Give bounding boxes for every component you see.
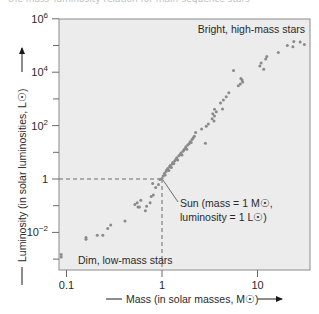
star-point bbox=[157, 183, 160, 186]
star-point bbox=[101, 234, 104, 237]
star-point bbox=[222, 99, 225, 102]
star-point bbox=[109, 224, 112, 227]
annotation-sun-line1: Sun (mass = 1 M☉, bbox=[180, 197, 273, 209]
star-point bbox=[181, 153, 184, 156]
star-point bbox=[260, 62, 263, 65]
star-point bbox=[124, 219, 127, 222]
star-point bbox=[291, 45, 294, 48]
star-point bbox=[299, 41, 302, 44]
star-point bbox=[200, 127, 203, 130]
star-point bbox=[185, 148, 188, 151]
star-point bbox=[149, 201, 152, 204]
star-point bbox=[239, 83, 242, 86]
star-point bbox=[303, 43, 306, 46]
star-point bbox=[205, 125, 208, 128]
star-point bbox=[215, 110, 218, 113]
star-point bbox=[152, 194, 155, 197]
star-point bbox=[219, 102, 222, 105]
star-point bbox=[286, 44, 289, 47]
y-tick-label: 1 bbox=[42, 173, 48, 185]
y-tick-label: 102 bbox=[31, 118, 48, 132]
star-point bbox=[176, 158, 179, 161]
star-point bbox=[241, 81, 244, 84]
star-point bbox=[106, 227, 109, 230]
x-tick-label: 10 bbox=[251, 279, 263, 291]
star-point bbox=[60, 253, 63, 256]
star-point bbox=[164, 174, 167, 177]
x-tick-label: 0.1 bbox=[59, 279, 74, 291]
star-point bbox=[264, 58, 267, 61]
x-axis-ticks: 0.1110 bbox=[59, 270, 264, 291]
star-point bbox=[190, 141, 193, 144]
star-point bbox=[60, 256, 63, 259]
star-point bbox=[292, 40, 295, 43]
star-point bbox=[167, 169, 170, 172]
star-point bbox=[213, 108, 216, 111]
plot-area bbox=[59, 19, 310, 270]
annotation-bright-high-mass: Bright, high-mass stars bbox=[198, 23, 305, 35]
y-tick-label: 10−2 bbox=[27, 224, 49, 238]
star-point bbox=[154, 186, 157, 189]
y-tick-label: 106 bbox=[31, 11, 48, 25]
star-point bbox=[207, 123, 210, 126]
y-axis-label: Luminosity (in solar luminosities, L☉) bbox=[16, 48, 28, 285]
x-axis-label: Mass (in solar masses, M☉) bbox=[106, 293, 282, 305]
mass-luminosity-chart: 106104102110−2 0.1110 Bright, high-mass … bbox=[0, 0, 319, 314]
star-point bbox=[85, 236, 88, 239]
star-point bbox=[211, 117, 214, 120]
star-point bbox=[144, 209, 147, 212]
star-point bbox=[221, 108, 224, 111]
star-point bbox=[225, 95, 228, 98]
x-tick-label: 1 bbox=[159, 279, 165, 291]
star-point bbox=[151, 182, 154, 185]
star-point bbox=[258, 65, 261, 68]
star-point bbox=[138, 205, 141, 208]
star-point bbox=[265, 55, 268, 58]
star-point bbox=[227, 91, 230, 94]
star-point bbox=[136, 201, 139, 204]
annotation-sun-line2: luminosity = 1 L☉) bbox=[180, 211, 267, 223]
star-point bbox=[170, 166, 173, 169]
star-point bbox=[193, 135, 196, 138]
star-point bbox=[277, 51, 280, 54]
star-point bbox=[139, 199, 142, 202]
y-tick-label: 104 bbox=[31, 64, 48, 78]
annotation-dim-low-mass: Dim, low-mass stars bbox=[78, 254, 173, 266]
star-point bbox=[239, 77, 242, 80]
star-point bbox=[232, 69, 235, 72]
star-point bbox=[133, 203, 136, 206]
star-point bbox=[96, 234, 99, 237]
star-point bbox=[172, 162, 175, 165]
star-point bbox=[145, 205, 148, 208]
svg-text:Mass (in solar masses, M☉): Mass (in solar masses, M☉) bbox=[126, 293, 259, 305]
star-point bbox=[211, 112, 214, 115]
star-point bbox=[204, 142, 207, 145]
y-axis-ticks: 106104102110−2 bbox=[27, 11, 59, 259]
star-point bbox=[262, 68, 265, 71]
svg-text:Luminosity (in solar luminosit: Luminosity (in solar luminosities, L☉) bbox=[16, 89, 28, 262]
star-point bbox=[194, 131, 197, 134]
